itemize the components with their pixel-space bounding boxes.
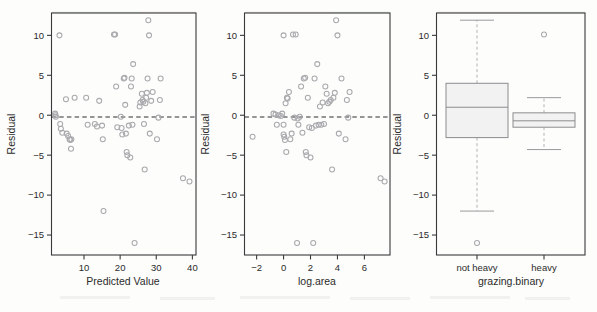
panel3-y-axis-title: Residual — [391, 114, 403, 155]
x-tick-label: 4 — [335, 262, 340, 273]
x-tick-label: −2 — [251, 262, 262, 273]
y-tick-label: 5 — [424, 70, 429, 81]
y-tick-label: −10 — [221, 189, 237, 200]
y-tick-label: −10 — [28, 189, 44, 200]
y-tick-label: −15 — [28, 229, 44, 240]
x-tick-label: 0 — [281, 262, 286, 273]
y-tick-label: 5 — [232, 70, 237, 81]
y-tick-label: −5 — [226, 150, 237, 161]
figure-canvas: 1050−5−10−15 10203040 Predicted Value Re… — [0, 0, 597, 312]
panel1-y-axis-title: Residual — [5, 114, 17, 155]
figure-background — [0, 0, 597, 312]
category-label: heavy — [531, 262, 557, 273]
y-tick-label: 10 — [418, 30, 429, 41]
y-tick-label: −5 — [418, 150, 429, 161]
residual-diagnostics-figure: 1050−5−10−15 10203040 Predicted Value Re… — [0, 0, 597, 312]
box-iqr — [513, 113, 575, 127]
y-tick-label: 10 — [33, 30, 44, 41]
y-tick-label: 10 — [226, 30, 237, 41]
x-tick-label: 30 — [151, 262, 162, 273]
y-tick-label: −10 — [413, 189, 429, 200]
x-tick-label: 20 — [115, 262, 126, 273]
y-tick-label: −5 — [33, 150, 44, 161]
y-tick-label: 0 — [39, 110, 44, 121]
panel1-x-axis-title: Predicted Value — [86, 275, 160, 287]
x-tick-label: 2 — [308, 262, 313, 273]
y-tick-label: −15 — [221, 229, 237, 240]
x-tick-label: 10 — [79, 262, 90, 273]
panel2-x-axis-title: log.area — [298, 275, 336, 287]
y-tick-label: −15 — [413, 229, 429, 240]
panel3-x-axis-title: grazing.binary — [478, 275, 545, 287]
y-tick-label: 0 — [232, 110, 237, 121]
y-tick-label: 0 — [424, 110, 429, 121]
box-iqr — [446, 83, 508, 137]
y-tick-label: 5 — [39, 70, 44, 81]
x-tick-label: 6 — [362, 262, 367, 273]
category-label: not heavy — [456, 262, 497, 273]
panel2-y-axis-title: Residual — [199, 114, 211, 155]
x-tick-label: 40 — [187, 262, 198, 273]
